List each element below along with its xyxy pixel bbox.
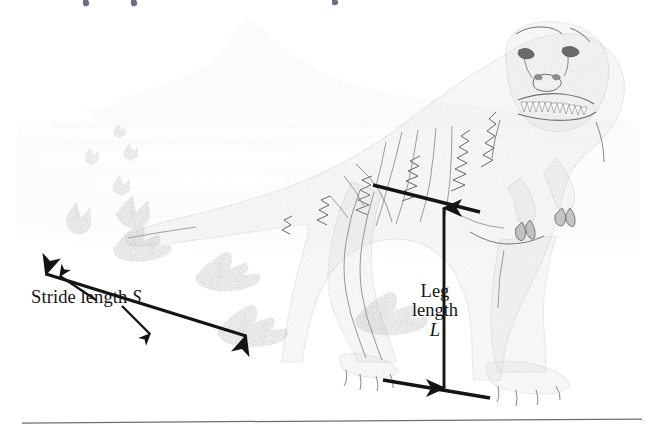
figure-root: Stride length S Leg length L (0, 0, 656, 436)
dinosaur-head (506, 22, 609, 132)
dinosaur-diagram-illustration (0, 0, 656, 436)
